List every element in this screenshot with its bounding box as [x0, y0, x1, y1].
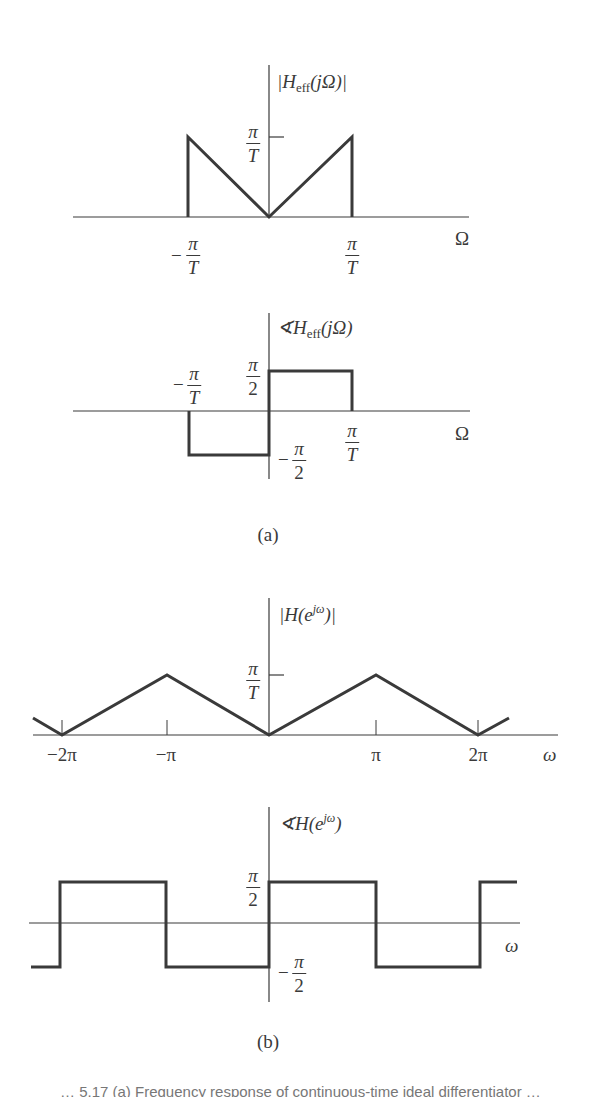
a-phase-xtick-neg-pi-over-t: π T — [187, 364, 201, 407]
num: π — [186, 234, 200, 256]
b-mag-ylabel: |H(ejω)| — [279, 603, 336, 624]
num: π — [246, 355, 260, 377]
den: 2 — [248, 888, 258, 909]
a-phase-ytick-pos-label: π 2 — [246, 355, 260, 398]
a-mag-xlabel: Ω — [455, 229, 469, 248]
plot-b-phase — [29, 807, 520, 1002]
num: π — [345, 234, 359, 256]
den: T — [347, 256, 358, 277]
ylabel-post: )| — [325, 604, 337, 625]
num: π — [345, 421, 359, 443]
ylabel-pre: |H(e — [279, 604, 313, 625]
ylabel-sub: eff — [307, 326, 321, 341]
b-phase-xlabel: ω — [505, 936, 518, 955]
b-mag-xlabel: ω — [543, 745, 556, 764]
panel-b-label: (b) — [257, 1031, 279, 1053]
den: T — [189, 386, 200, 407]
a-mag-ytick-label: π T — [246, 122, 260, 165]
a-phase-xlabel: Ω — [455, 424, 469, 443]
ylabel-sup: jω — [323, 811, 335, 825]
num: π — [246, 659, 260, 681]
magnitude-curve — [33, 675, 509, 735]
ylabel-pre: ∢H(e — [279, 813, 323, 834]
ylabel-sub: eff — [296, 80, 310, 95]
num: π — [292, 952, 306, 974]
b-mag-xtick-pi: π — [371, 745, 381, 764]
ylabel-post: (jΩ)| — [310, 71, 347, 92]
a-mag-xtick-neg-sign: − — [171, 246, 182, 265]
a-mag-xtick-neg-pi-over-t: π T — [186, 234, 200, 277]
den: T — [188, 256, 199, 277]
b-phase-ytick-pos-label: π 2 — [246, 866, 260, 909]
a-mag-ylabel: |Heff(jΩ)| — [277, 72, 347, 94]
a-phase-ytick-neg-label: π 2 — [292, 439, 306, 482]
den: 2 — [294, 461, 304, 482]
a-mag-xtick-pi-over-t: π T — [345, 234, 359, 277]
a-phase-ylabel: ∢Heff(jΩ) — [277, 318, 353, 340]
a-phase-xtick-pi-over-t: π T — [345, 421, 359, 464]
num: π — [292, 439, 306, 461]
plot-a-phase — [73, 313, 470, 479]
a-phase-ytick-neg-sign: − — [278, 450, 289, 469]
ylabel-sup: jω — [313, 602, 325, 616]
b-mag-xtick-2pi: 2π — [468, 745, 487, 764]
b-phase-ylabel: ∢H(ejω) — [279, 812, 342, 833]
plot-a-magnitude — [73, 65, 469, 217]
figure-caption: … 5.17 (a) Frequency response of continu… — [0, 1083, 593, 1097]
a-phase-xtick-neg-sign: − — [173, 375, 184, 394]
den: 2 — [248, 377, 258, 398]
num: π — [246, 122, 260, 144]
b-mag-xtick-neg-2pi: −2π — [47, 745, 77, 764]
num: π — [187, 364, 201, 386]
ylabel-pre: ∢H — [277, 317, 307, 338]
b-phase-ytick-neg-label: π 2 — [292, 952, 306, 995]
b-phase-ytick-neg-sign: − — [278, 963, 289, 982]
den: 2 — [294, 974, 304, 995]
ylabel-post: (jΩ) — [321, 317, 353, 338]
b-mag-ytick-label: π T — [246, 659, 260, 702]
den: T — [248, 681, 259, 702]
den: T — [248, 144, 259, 165]
phase-curve — [31, 882, 517, 967]
ylabel-post: ) — [335, 813, 341, 834]
magnitude-curve — [188, 137, 352, 217]
b-mag-xtick-neg-pi: −π — [156, 745, 176, 764]
ylabel-pre: |H — [277, 71, 296, 92]
num: π — [246, 866, 260, 888]
phase-curve — [189, 371, 352, 455]
panel-a-label: (a) — [257, 524, 278, 546]
den: T — [347, 443, 358, 464]
